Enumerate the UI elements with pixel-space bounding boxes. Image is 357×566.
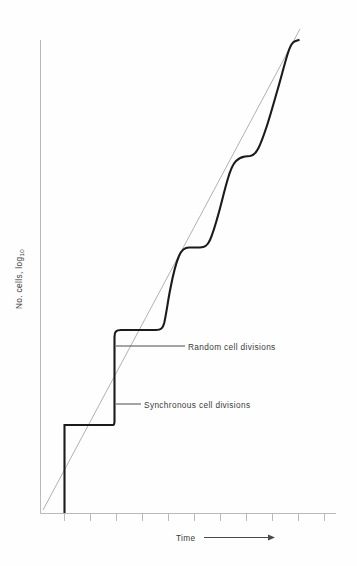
x-axis-arrow-head — [268, 535, 275, 541]
series-random-cell-divisions — [43, 29, 300, 510]
annotation-label-synchronous-cell-divisions: Synchronous cell divisions — [144, 400, 250, 410]
series-synchronous-cell-divisions — [65, 40, 300, 513]
x-axis-title: Time — [176, 533, 196, 543]
y-axis-title-subscript: 10 — [18, 249, 25, 257]
figure-container: No. cells, log10 Time Random cell divisi… — [0, 0, 357, 566]
x-axis-ticks — [65, 514, 325, 522]
y-axis-title: No. cells, log10 — [14, 239, 24, 319]
chart-plot — [0, 0, 357, 566]
y-axis-title-text: No. cells, log — [14, 257, 24, 309]
annotation-label-random-cell-divisions: Random cell divisions — [188, 342, 276, 352]
